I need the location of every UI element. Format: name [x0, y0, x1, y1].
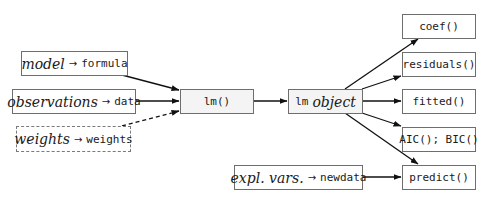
edge-object-to-residuals: [362, 76, 401, 89]
observations-label: observations: [7, 94, 98, 110]
data-arg: data: [114, 95, 141, 108]
lm-function-label: lm(): [204, 95, 231, 108]
weights-arg: weights: [86, 133, 132, 146]
fitted-label: fitted(): [413, 95, 466, 108]
arrow-glyph: →: [74, 134, 82, 145]
aic-bic-label: AIC(); BIC(): [399, 133, 478, 146]
edge-object-to-aic: [362, 113, 401, 126]
arrow-glyph: →: [102, 96, 110, 107]
newdata-box: expl. vars. → newdata: [234, 165, 363, 190]
residuals-box: residuals(): [402, 52, 476, 77]
expl-vars-label: expl. vars.: [231, 170, 304, 186]
aic-bic-box: AIC(); BIC(): [402, 127, 476, 152]
newdata-arg: newdata: [320, 171, 366, 184]
predict-label: predict(): [409, 171, 469, 184]
predict-box: predict(): [402, 165, 476, 190]
model-label: model: [21, 56, 64, 72]
lm-object-box: lm object: [288, 89, 363, 114]
lm-function-box: lm(): [180, 89, 254, 114]
weights-label: weights: [14, 131, 70, 147]
arrow-glyph: →: [69, 58, 77, 69]
coef-box: coef(): [402, 14, 476, 39]
weights-box: weights → weights: [16, 126, 131, 152]
residuals-label: residuals(): [403, 58, 476, 71]
fitted-box: fitted(): [402, 89, 476, 114]
formula-arg: formula: [81, 57, 127, 70]
arrow-glyph: →: [308, 172, 316, 183]
observations-data-box: observations → data: [12, 89, 136, 114]
lm-object-suffix: object: [312, 94, 355, 110]
model-formula-box: model → formula: [21, 51, 128, 76]
lm-workflow-diagram: model → formula observations → data weig…: [0, 0, 490, 204]
coef-label: coef(): [419, 20, 459, 33]
edge-model-to-lm: [122, 75, 179, 90]
lm-object-prefix: lm: [295, 95, 308, 108]
